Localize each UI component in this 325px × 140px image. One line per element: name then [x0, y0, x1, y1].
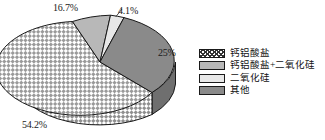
- legend-swatch-calcium-aluminate-silica: [199, 61, 225, 70]
- legend-swatch-other: [199, 86, 225, 95]
- chart-legend: 钙铝酸盐 钙铝酸盐+二氧化硅 二氧化硅 其他: [199, 47, 325, 97]
- legend-item-silica[interactable]: 二氧化硅: [199, 72, 325, 85]
- legend-swatch-calcium-aluminate: [199, 49, 225, 58]
- legend-label-calcium-aluminate-silica: 钙铝酸盐+二氧化硅: [230, 60, 315, 71]
- data-label-calcium-aluminate: 54.2%: [22, 119, 47, 130]
- legend-item-other[interactable]: 其他: [199, 85, 325, 98]
- legend-label-other: 其他: [230, 85, 250, 96]
- legend-label-calcium-aluminate: 钙铝酸盐: [230, 48, 270, 59]
- legend-label-silica: 二氧化硅: [230, 73, 270, 84]
- legend-swatch-silica: [199, 74, 225, 83]
- data-label-other: 25%: [158, 47, 176, 58]
- legend-item-calcium-aluminate[interactable]: 钙铝酸盐: [199, 47, 325, 60]
- pie-chart-plot: 16.7% 4.1% 25% 54.2%: [0, 0, 200, 140]
- legend-item-calcium-aluminate-silica[interactable]: 钙铝酸盐+二氧化硅: [199, 60, 325, 73]
- pie-chart-figure: 16.7% 4.1% 25% 54.2% 钙铝酸盐 钙铝酸盐+二氧化硅 二氧化硅: [0, 0, 325, 140]
- data-label-calcium-aluminate-silica: 16.7%: [53, 2, 78, 13]
- data-label-silica: 4.1%: [118, 5, 138, 16]
